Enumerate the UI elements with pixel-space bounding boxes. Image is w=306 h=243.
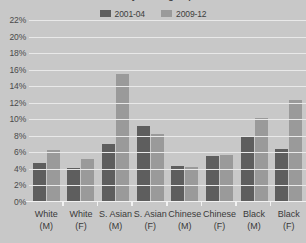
- bar[interactable]: [171, 166, 184, 201]
- x-axis-category-label: Chinese(F): [202, 208, 237, 243]
- bar[interactable]: [255, 118, 268, 201]
- y-axis-tick-label: 14%: [10, 81, 26, 91]
- bar[interactable]: [220, 155, 233, 201]
- bar[interactable]: [47, 150, 60, 200]
- bar-group: [133, 20, 168, 201]
- category-line-2: (F): [271, 220, 306, 232]
- x-axis-category-label: Chinese(M): [168, 208, 203, 243]
- y-axis-tick-label: 22%: [10, 15, 26, 25]
- legend-swatch-2009-12: [161, 10, 172, 17]
- bar[interactable]: [116, 74, 129, 201]
- category-line-1: S. Asian: [134, 209, 167, 219]
- bar[interactable]: [185, 167, 198, 201]
- x-axis-tick: [64, 202, 99, 206]
- category-line-2: (F): [133, 220, 168, 232]
- y-axis-tick-label: 18%: [10, 48, 26, 58]
- x-axis-tick: [98, 202, 133, 206]
- y-axis-tick-label: 2%: [14, 180, 26, 190]
- x-axis-category-label: Black(F): [271, 208, 306, 243]
- bar-group: [237, 20, 272, 201]
- bar[interactable]: [81, 159, 94, 200]
- x-axis-tick: [271, 202, 306, 206]
- gridline: [29, 53, 306, 54]
- category-line-2: (M): [168, 220, 203, 232]
- bar[interactable]: [137, 126, 150, 200]
- category-line-1: S. Asian: [99, 209, 132, 219]
- category-line-1: Chinese: [203, 209, 236, 219]
- legend-item-2001-04[interactable]: 2001-04: [100, 9, 146, 19]
- y-axis-tick-label: 12%: [10, 98, 26, 108]
- category-line-1: Black: [278, 209, 300, 219]
- legend-label-2001-04: 2001-04: [115, 9, 146, 19]
- category-line-2: (M): [98, 220, 133, 232]
- category-line-2: (F): [64, 220, 99, 232]
- category-line-2: (F): [202, 220, 237, 232]
- x-axis-category-label: S. Asian(M): [98, 208, 133, 243]
- gridline: [29, 70, 306, 71]
- x-axis-category-label: Black(M): [237, 208, 272, 243]
- bar[interactable]: [275, 149, 288, 200]
- gridline: [29, 119, 306, 120]
- bar-group: [29, 20, 64, 201]
- gridline: [29, 20, 306, 21]
- y-axis-tick-label: 10%: [10, 114, 26, 124]
- category-line-1: White: [69, 209, 92, 219]
- gridline: [29, 103, 306, 104]
- bar-group: [98, 20, 133, 201]
- bar-group: [202, 20, 237, 201]
- plot-wrapper: 0%2%4%6%8%10%12%14%16%18%20%22% White(M)…: [0, 20, 306, 243]
- x-axis-category-label: White(M): [29, 208, 64, 243]
- x-axis-category-label: S. Asian(F): [133, 208, 168, 243]
- bar[interactable]: [151, 134, 164, 201]
- x-axis-tick: [133, 202, 168, 206]
- y-axis-tick-label: 20%: [10, 32, 26, 42]
- bar-chart: Prevalence by ethnic group and sex 2001-…: [0, 0, 306, 243]
- bar[interactable]: [206, 156, 219, 201]
- plot-area: [29, 20, 306, 202]
- chart-title-clipped: Prevalence by ethnic group and sex: [0, 0, 306, 3]
- bar-group: [168, 20, 203, 201]
- x-axis-ticks: [29, 202, 306, 206]
- bar[interactable]: [67, 168, 80, 200]
- category-line-1: Black: [243, 209, 265, 219]
- bar-groups: [29, 20, 306, 201]
- chart-legend: 2001-04 2009-12: [0, 7, 306, 20]
- bar-group: [64, 20, 99, 201]
- x-axis-labels: White(M)White(F)S. Asian(M)S. Asian(F)Ch…: [29, 208, 306, 243]
- bar-group: [271, 20, 306, 201]
- gridline: [29, 37, 306, 38]
- category-line-1: Chinese: [168, 209, 201, 219]
- legend-swatch-2001-04: [100, 10, 111, 17]
- gridline: [29, 86, 306, 87]
- y-axis-tick-label: 16%: [10, 65, 26, 75]
- category-line-1: White: [35, 209, 58, 219]
- y-axis-tick-label: 0%: [14, 197, 26, 207]
- category-line-2: (M): [237, 220, 272, 232]
- x-axis-tick: [202, 202, 237, 206]
- gridline: [29, 185, 306, 186]
- x-axis-tick: [29, 202, 64, 206]
- y-axis-tick-label: 4%: [14, 164, 26, 174]
- gridline: [29, 169, 306, 170]
- x-axis-category-label: White(F): [64, 208, 99, 243]
- category-line-2: (M): [29, 220, 64, 232]
- legend-item-2009-12[interactable]: 2009-12: [161, 9, 207, 19]
- y-axis-tick-label: 6%: [14, 147, 26, 157]
- gridline: [29, 152, 306, 153]
- legend-label-2009-12: 2009-12: [176, 9, 207, 19]
- y-axis: 0%2%4%6%8%10%12%14%16%18%20%22%: [0, 20, 28, 202]
- x-axis-tick: [168, 202, 203, 206]
- x-axis-tick: [237, 202, 272, 206]
- y-axis-tick-label: 8%: [14, 131, 26, 141]
- gridline: [29, 136, 306, 137]
